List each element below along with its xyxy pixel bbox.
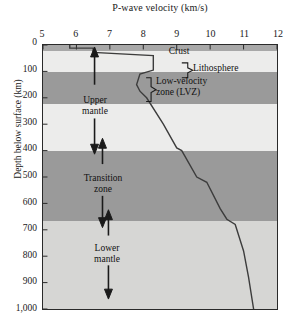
y-axis-tick-labels: 01002003004005006007008009001,000	[0, 0, 40, 318]
y-tick-0: 0	[32, 37, 37, 47]
x-tick-7: 7	[97, 28, 121, 39]
chart-title: P-wave velocity (km/s)	[42, 2, 278, 13]
y-tick-200: 200	[23, 90, 37, 100]
label-upper-mantle: Upper mantle	[59, 95, 131, 116]
y-tick-1,000: 1,000	[16, 303, 37, 313]
label-crust: Crust	[139, 46, 219, 57]
y-tick-600: 600	[23, 197, 37, 207]
label-low-velocity-zone: Low-velocity zone (LVZ)	[156, 76, 242, 97]
x-tick-12: 12	[266, 28, 290, 39]
x-tick-8: 8	[131, 28, 155, 39]
x-axis-tick-labels: 56789101112	[0, 28, 292, 41]
y-tick-700: 700	[23, 223, 37, 233]
y-tick-800: 800	[23, 250, 37, 260]
lvz-bracket	[146, 78, 156, 102]
label-lithosphere: Lithosphere	[193, 63, 271, 74]
x-tick-11: 11	[232, 28, 256, 39]
x-tick-10: 10	[199, 28, 223, 39]
plot-area: Crust Lithosphere Low-velocity zone (LVZ…	[42, 44, 278, 310]
y-tick-400: 400	[23, 143, 37, 153]
label-transition-zone: Transition zone	[67, 173, 139, 194]
y-tick-500: 500	[23, 170, 37, 180]
x-tick-6: 6	[64, 28, 88, 39]
y-tick-100: 100	[23, 64, 37, 74]
y-tick-900: 900	[23, 276, 37, 286]
y-tick-300: 300	[23, 117, 37, 127]
p-wave-velocity-figure: P-wave velocity (km/s) 56789101112 Depth…	[0, 0, 292, 318]
label-lower-mantle: Lower mantle	[71, 243, 143, 264]
x-tick-9: 9	[165, 28, 189, 39]
